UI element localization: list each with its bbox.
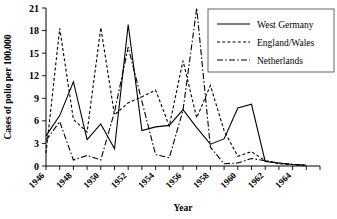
chart-canvas: 0369121518211946194819501952195419561958… (0, 0, 337, 219)
legend-label-england-wales: England/Wales (257, 38, 315, 48)
x-tick-label: 1950 (81, 170, 101, 190)
x-tick-label: 1962 (246, 170, 266, 190)
y-tick-label: 6 (34, 115, 39, 126)
x-axis-title: Year (174, 203, 194, 213)
y-tick-label: 15 (29, 48, 39, 59)
x-tick-label: 1946 (27, 170, 47, 190)
y-tick-label: 21 (29, 3, 39, 14)
y-tick-label: 12 (29, 70, 39, 81)
x-tick-label: 1958 (191, 170, 211, 190)
x-tick-label: 1956 (164, 170, 184, 190)
x-tick-label: 1954 (136, 170, 156, 190)
y-axis-title: Cases of polio per 100,000 (3, 34, 13, 139)
polio-incidence-line-chart: 0369121518211946194819501952195419561958… (0, 0, 337, 219)
y-tick-label: 3 (34, 138, 39, 149)
legend-label-netherlands: Netherlands (257, 56, 303, 66)
chart-legend: West GermanyEngland/WalesNetherlands (208, 9, 334, 72)
y-tick-label: 9 (34, 93, 39, 104)
x-tick-label: 1948 (54, 170, 74, 190)
x-tick-label: 1952 (109, 170, 129, 190)
legend-label-west-germany: West Germany (257, 20, 314, 30)
x-tick-label: 1960 (218, 170, 238, 190)
y-tick-label: 0 (34, 161, 39, 172)
x-tick-label: 1964 (273, 170, 293, 190)
y-tick-label: 18 (29, 25, 39, 36)
